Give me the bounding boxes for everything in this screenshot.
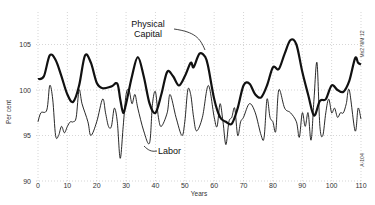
y-axis-ticks: 9095100105 [19, 41, 31, 185]
x-tick-label: 110 [355, 182, 366, 189]
physical-capital-label: PhysicalCapital [131, 19, 165, 39]
x-tick-label: 10 [63, 182, 71, 189]
y-tick-label: 90 [23, 178, 31, 185]
x-tick-label: 70 [240, 182, 248, 189]
x-tick-label: 80 [269, 182, 277, 189]
x-tick-label: 60 [210, 182, 218, 189]
margin-note-bottom: A-104 [359, 153, 365, 167]
x-tick-label: 50 [181, 182, 189, 189]
line-chart: 9095100105 0102030405060708090100110 Per… [0, 0, 375, 205]
x-tick-label: 100 [326, 182, 338, 189]
x-tick-label: 0 [36, 182, 40, 189]
labor-leader [144, 146, 157, 151]
x-tick-label: 40 [152, 182, 160, 189]
margin-note-top: Ms2 N/M 12 [359, 30, 365, 57]
x-axis-ticks: 0102030405060708090100110 [36, 182, 367, 189]
physical-capital-leader [174, 29, 205, 50]
x-axis-label: Years [191, 190, 208, 197]
physical-capital-line [38, 39, 361, 124]
y-axis-label: Per cent [5, 100, 12, 124]
y-tick-label: 95 [23, 132, 31, 139]
labor-label: Labor [158, 146, 181, 156]
y-tick-label: 100 [19, 87, 31, 94]
x-tick-label: 20 [93, 182, 101, 189]
series-lines [38, 39, 361, 158]
x-tick-label: 30 [122, 182, 130, 189]
y-tick-label: 105 [19, 41, 31, 48]
x-tick-label: 90 [298, 182, 306, 189]
